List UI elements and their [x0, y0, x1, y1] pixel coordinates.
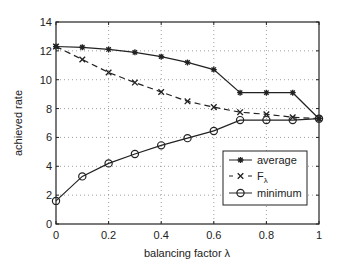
legend: average Fλ minimum	[223, 151, 307, 205]
y-tick-label: 6	[46, 131, 52, 143]
series-f	[53, 44, 322, 122]
legend-label-average: average	[257, 154, 297, 166]
asterisk-marker-icon	[238, 157, 244, 163]
x-tick-label: 0.8	[259, 229, 274, 241]
y-tick-label: 4	[46, 160, 52, 172]
y-tick-label: 8	[46, 103, 52, 115]
x-tick-label: 0.2	[101, 229, 116, 241]
y-tick-label: 10	[40, 74, 52, 86]
y-tick-label: 2	[46, 189, 52, 201]
x-tick-label: 1	[316, 229, 322, 241]
x-tick-label: 0.4	[154, 229, 169, 241]
x-tick-label: 0.6	[206, 229, 221, 241]
legend-label-minimum: minimum	[257, 187, 302, 199]
y-tick-label: 12	[40, 45, 52, 57]
x-tick-label: 0	[53, 229, 59, 241]
series-average	[53, 44, 322, 122]
y-tick-label: 14	[40, 16, 52, 28]
y-tick-label: 0	[46, 218, 52, 230]
y-axis-label: achieved rate	[12, 90, 24, 156]
line-chart: 00.20.40.60.8102468101214 balancing fact…	[0, 0, 343, 268]
x-axis-label: balancing factor λ	[144, 247, 231, 259]
